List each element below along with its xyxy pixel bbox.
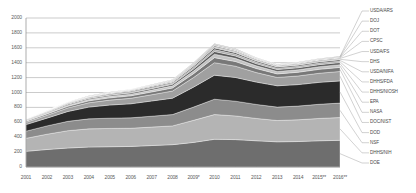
y-tick-label: 400 bbox=[0, 133, 22, 139]
stacked-area-chart: 0200400600800100012001400160018002000 20… bbox=[0, 0, 416, 193]
y-tick-label: 800 bbox=[0, 103, 22, 109]
legend-item-dhhs-nih[interactable]: DHHS/NIH bbox=[370, 150, 391, 155]
area-bands-group bbox=[26, 44, 340, 167]
plot-canvas bbox=[0, 0, 416, 193]
y-tick-label: 1400 bbox=[0, 59, 22, 65]
legend-item-usda-nifa[interactable]: USDA/NIFA bbox=[370, 69, 393, 74]
legend-item-dod[interactable]: DOD bbox=[370, 130, 380, 135]
legend-item-nasa[interactable]: NASA bbox=[370, 109, 382, 114]
x-tick-label: 2016** bbox=[327, 174, 353, 180]
leader-line bbox=[340, 59, 369, 61]
y-tick-label: 1000 bbox=[0, 89, 22, 95]
y-tick-label: 200 bbox=[0, 148, 22, 154]
leader-line bbox=[340, 52, 369, 59]
legend-item-dhhs-niosh[interactable]: DHHS/NIOSH bbox=[370, 89, 398, 94]
leader-line bbox=[340, 60, 369, 71]
legend-item-epa[interactable]: EPA bbox=[370, 99, 379, 104]
legend-item-dot[interactable]: DOT bbox=[370, 28, 379, 33]
leader-line bbox=[340, 66, 369, 102]
leader-line bbox=[340, 154, 369, 163]
legend-item-usda-fs[interactable]: USDA/FS bbox=[370, 49, 389, 54]
legend-item-doj[interactable]: DOJ bbox=[370, 18, 379, 23]
leader-line bbox=[340, 31, 369, 57]
legend-item-doc-nist[interactable]: DOC/NIST bbox=[370, 119, 391, 124]
legend-leader-lines-group bbox=[340, 11, 369, 163]
legend-item-dhs[interactable]: DHS bbox=[370, 59, 379, 64]
y-tick-label: 1800 bbox=[0, 29, 22, 35]
leader-line bbox=[340, 69, 369, 112]
y-tick-label: 2000 bbox=[0, 14, 22, 20]
y-tick-label: 1200 bbox=[0, 74, 22, 80]
y-tick-label: 1600 bbox=[0, 44, 22, 50]
y-tick-label: 0 bbox=[0, 163, 22, 169]
legend-item-cpsc[interactable]: CPSC bbox=[370, 38, 382, 43]
leader-line bbox=[340, 110, 369, 142]
y-tick-label: 600 bbox=[0, 118, 22, 124]
legend-item-doe[interactable]: DOE bbox=[370, 160, 380, 165]
legend-item-nsf[interactable]: NSF bbox=[370, 140, 379, 145]
legend-item-dhhs-fda[interactable]: DHHS/FDA bbox=[370, 79, 393, 84]
legend-item-usda-ars[interactable]: USDA/ARS bbox=[370, 8, 393, 13]
leader-line bbox=[340, 76, 369, 122]
